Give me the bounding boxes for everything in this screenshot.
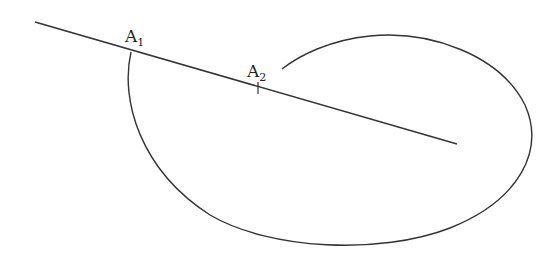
point-a1-label: A1: [124, 26, 144, 49]
point-a2-label: A2: [246, 61, 266, 84]
straight-line: [35, 22, 457, 144]
diagram-canvas: A1 A2: [0, 0, 558, 257]
